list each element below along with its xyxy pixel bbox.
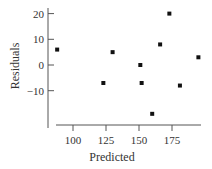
data-points	[55, 12, 200, 116]
x-tick-label: 150	[131, 134, 148, 146]
residual-plot: 20100−10 100125150175 Predicted Residual…	[0, 0, 212, 169]
data-point	[111, 50, 115, 54]
data-point	[196, 55, 200, 59]
y-tick-label: 20	[33, 8, 45, 20]
y-tick-label: 10	[33, 33, 45, 45]
x-tick-label: 125	[98, 134, 115, 146]
data-point	[178, 84, 182, 88]
data-point	[167, 12, 171, 16]
data-point	[140, 81, 144, 85]
y-axis-title: Residuals	[8, 42, 22, 89]
y-tick-label: 0	[39, 59, 45, 71]
x-axis-title: Predicted	[89, 150, 134, 164]
y-axis-ticks: 20100−10	[27, 8, 54, 97]
data-point	[150, 112, 154, 116]
data-point	[55, 48, 59, 52]
x-axis-ticks: 100125150175	[65, 125, 181, 146]
y-tick-label: −10	[27, 85, 45, 97]
data-point	[158, 42, 162, 46]
data-point	[138, 63, 142, 67]
data-point	[101, 81, 105, 85]
x-tick-label: 100	[65, 134, 82, 146]
x-tick-label: 175	[164, 134, 181, 146]
